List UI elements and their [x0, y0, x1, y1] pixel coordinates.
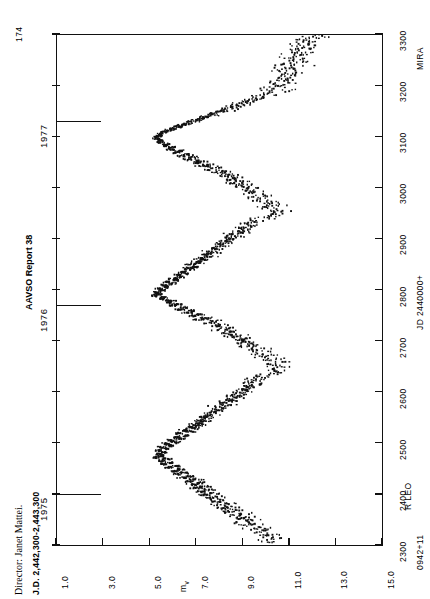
- data-point: [259, 200, 261, 202]
- data-point: [238, 510, 240, 512]
- time-axis-title: JD 2440000+: [415, 275, 425, 330]
- time-tick-label: 2900: [398, 235, 408, 256]
- data-point: [229, 183, 231, 185]
- data-point: [263, 529, 265, 531]
- data-point: [233, 400, 235, 401]
- data-point: [249, 228, 250, 230]
- data-point: [296, 61, 297, 63]
- data-point: [217, 501, 218, 502]
- data-point: [192, 476, 194, 478]
- data-point: [273, 373, 275, 374]
- data-point: [312, 41, 314, 42]
- data-point: [247, 380, 248, 382]
- data-point: [263, 359, 264, 361]
- data-point: [207, 161, 209, 163]
- data-point: [278, 215, 280, 216]
- data-point: [235, 507, 237, 509]
- data-point: [223, 402, 224, 403]
- data-point: [200, 258, 201, 260]
- data-point: [172, 127, 173, 129]
- data-point: [176, 465, 177, 466]
- data-point: [156, 141, 158, 143]
- data-point: [321, 34, 322, 35]
- data-point: [220, 252, 222, 254]
- data-point: [245, 101, 246, 102]
- data-point: [254, 532, 256, 533]
- data-point: [249, 343, 250, 344]
- data-point: [237, 230, 238, 232]
- data-point: [160, 463, 161, 465]
- data-point: [194, 431, 196, 432]
- data-point: [234, 502, 235, 503]
- data-point: [315, 44, 316, 46]
- data-point: [299, 38, 300, 40]
- data-point: [204, 415, 205, 417]
- data-point: [198, 257, 199, 259]
- data-point: [277, 372, 278, 373]
- data-point: [276, 534, 277, 535]
- year-axis-tick: [52, 136, 60, 137]
- data-point: [181, 472, 182, 473]
- data-point: [235, 400, 236, 401]
- data-point: [187, 434, 189, 436]
- data-point: [248, 186, 250, 187]
- data-point: [226, 402, 228, 404]
- data-point: [227, 324, 229, 326]
- data-point: [214, 409, 215, 410]
- data-point: [232, 509, 233, 510]
- data-point: [295, 89, 296, 90]
- data-point: [207, 412, 208, 414]
- data-point: [229, 399, 231, 401]
- data-point: [154, 138, 155, 139]
- data-point: [270, 527, 271, 529]
- data-point: [243, 236, 244, 238]
- data-point: [221, 495, 223, 497]
- data-point: [163, 463, 165, 464]
- data-point: [299, 45, 300, 46]
- data-point: [260, 519, 261, 520]
- time-tick-label: 2300: [398, 541, 408, 562]
- data-point: [190, 121, 192, 122]
- data-point: [249, 218, 251, 219]
- data-point: [170, 440, 171, 441]
- data-point: [291, 89, 292, 90]
- data-point: [230, 514, 232, 515]
- data-point: [276, 370, 277, 371]
- data-point: [251, 384, 253, 386]
- data-point: [268, 218, 269, 219]
- data-point: [272, 536, 274, 538]
- data-point: [199, 121, 200, 122]
- data-point: [209, 412, 210, 413]
- data-point: [251, 183, 253, 184]
- data-point: [284, 72, 286, 74]
- data-point: [237, 176, 238, 178]
- data-point: [255, 187, 256, 188]
- data-point: [184, 309, 185, 311]
- data-point: [209, 493, 211, 494]
- data-point: [160, 290, 162, 292]
- data-point: [254, 357, 256, 358]
- data-point: [261, 350, 262, 351]
- data-point: [270, 348, 271, 350]
- data-point: [194, 156, 195, 157]
- data-point: [214, 500, 216, 502]
- data-point: [258, 376, 260, 377]
- data-point: [237, 174, 239, 176]
- data-point: [259, 88, 261, 90]
- data-point: [224, 502, 225, 503]
- data-point: [189, 481, 191, 482]
- data-point: [184, 472, 186, 473]
- data-point: [211, 325, 213, 327]
- data-point: [223, 408, 224, 410]
- director-credit: Director: Janet Mattei.: [13, 505, 24, 595]
- data-point: [230, 508, 231, 509]
- data-point: [197, 482, 198, 484]
- data-point: [244, 338, 246, 339]
- data-point: [260, 198, 261, 200]
- magnitude-tick-label: 11.0: [293, 571, 303, 589]
- data-point: [188, 159, 189, 160]
- data-point: [281, 361, 283, 363]
- data-point: [175, 283, 177, 284]
- data-point: [220, 402, 221, 403]
- data-point: [316, 37, 317, 39]
